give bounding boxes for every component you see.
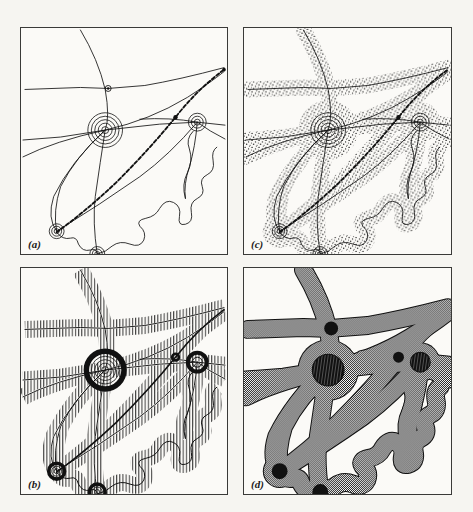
stipple-buffer-band	[244, 28, 451, 254]
coastline-sinuous	[57, 147, 217, 254]
panel-c-drawing	[244, 28, 451, 254]
panel-d-drawing	[244, 268, 451, 494]
road-east-west-north	[25, 68, 224, 90]
figure-root: (a)	[0, 0, 473, 512]
junction-settlement	[393, 352, 404, 363]
road-upper-arc	[80, 30, 107, 254]
panel-c: (c)	[243, 27, 452, 255]
railway-end-dot	[222, 68, 226, 72]
coastal-settlement-west	[272, 463, 288, 479]
north-crossing-core	[107, 87, 109, 89]
buffer-polygons-d	[244, 268, 451, 494]
panel-a-drawing	[21, 28, 227, 254]
panel-b-drawing	[21, 268, 227, 494]
road-sw-diagonal	[57, 122, 198, 231]
panel-d: (d)	[243, 267, 452, 495]
buffer-polygon-screen-fill	[244, 268, 451, 494]
panel-b-label: (b)	[28, 479, 41, 490]
north-crossing	[324, 322, 338, 336]
panel-c-label: (c)	[251, 239, 263, 250]
junction-settlement	[396, 115, 400, 119]
panel-a: (a)	[20, 27, 228, 255]
road-network-a	[23, 30, 225, 254]
primary-settlement	[312, 354, 344, 386]
panel-d-label: (d)	[251, 479, 264, 490]
junction-settlement	[173, 115, 177, 119]
panel-b: (b)	[20, 267, 228, 495]
road-far-east	[140, 119, 225, 139]
secondary-settlement	[410, 352, 430, 372]
railway-diagonal	[57, 70, 224, 233]
panel-a-label: (a)	[28, 239, 41, 250]
